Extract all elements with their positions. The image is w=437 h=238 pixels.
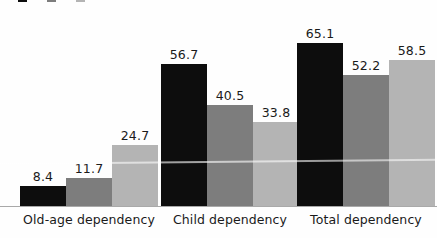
bar[interactable] <box>112 145 158 207</box>
bar-column[interactable]: 11.7 <box>66 1 112 207</box>
category-label: Old-age dependency <box>20 212 158 228</box>
bar[interactable] <box>297 43 343 207</box>
plot-area: 8.411.724.756.740.533.865.152.258.5 <box>0 0 437 207</box>
bar-value-label: 58.5 <box>398 44 427 57</box>
bar-column[interactable]: 56.7 <box>161 1 207 207</box>
bar[interactable] <box>389 60 435 207</box>
bar-group: 8.411.724.7 <box>20 0 158 207</box>
bar[interactable] <box>20 186 66 207</box>
bar-column[interactable]: 65.1 <box>297 1 343 207</box>
bar-value-label: 8.4 <box>33 170 53 183</box>
bar[interactable] <box>343 75 389 207</box>
legend-swatch-series-2 <box>47 0 56 2</box>
legend-item-series-1 <box>18 0 31 2</box>
category-label: Child dependency <box>161 212 299 228</box>
bar-chart: 8.411.724.756.740.533.865.152.258.5 Old-… <box>0 0 437 238</box>
bar-group: 65.152.258.5 <box>297 0 435 207</box>
bar-column[interactable]: 52.2 <box>343 1 389 207</box>
bar-column[interactable]: 40.5 <box>207 1 253 207</box>
x-axis-baseline <box>0 206 437 207</box>
bar-group: 56.740.533.8 <box>161 0 299 207</box>
chart-legend <box>18 0 89 3</box>
bar-value-label: 56.7 <box>170 48 199 61</box>
legend-item-series-3 <box>76 0 89 2</box>
bar-column[interactable]: 33.8 <box>253 1 299 207</box>
bar[interactable] <box>253 122 299 207</box>
bar-column[interactable]: 24.7 <box>112 1 158 207</box>
bar-column[interactable]: 8.4 <box>20 1 66 207</box>
category-label: Total dependency <box>297 212 435 228</box>
bar-value-label: 11.7 <box>75 162 104 175</box>
bar-value-label: 33.8 <box>262 106 291 119</box>
bar-column[interactable]: 58.5 <box>389 1 435 207</box>
legend-swatch-series-3 <box>76 0 85 2</box>
bar-value-label: 52.2 <box>352 59 381 72</box>
category-label-row: Old-age dependencyChild dependencyTotal … <box>0 212 437 234</box>
bar-value-label: 24.7 <box>121 129 150 142</box>
legend-swatch-series-1 <box>18 0 27 2</box>
bar[interactable] <box>207 105 253 207</box>
legend-item-series-2 <box>47 0 60 2</box>
bar-value-label: 65.1 <box>306 27 335 40</box>
bar[interactable] <box>66 178 112 207</box>
bar[interactable] <box>161 64 207 207</box>
bar-value-label: 40.5 <box>216 89 245 102</box>
